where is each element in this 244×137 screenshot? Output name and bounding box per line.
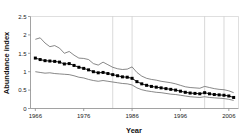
y-tick-label: 2.5 — [18, 14, 27, 20]
x-tick-label: 1986 — [125, 113, 139, 119]
y-tick-label: 1.5 — [18, 51, 27, 57]
x-tick-label: 2006 — [222, 113, 236, 119]
y-tick-label: 0.5 — [18, 87, 27, 93]
x-axis-title: Year — [126, 126, 142, 135]
x-tick-label: 1996 — [174, 113, 188, 119]
abundance-index-chart: 00.511.522.5 19661976198619962006 Abunda… — [0, 0, 244, 137]
x-tick-label: 1966 — [29, 113, 43, 119]
chart-screenshot: 00.511.522.5 19661976198619962006 Abunda… — [0, 0, 244, 137]
x-tick-label: 1976 — [77, 113, 91, 119]
y-axis-title: Abundance index — [2, 31, 11, 94]
